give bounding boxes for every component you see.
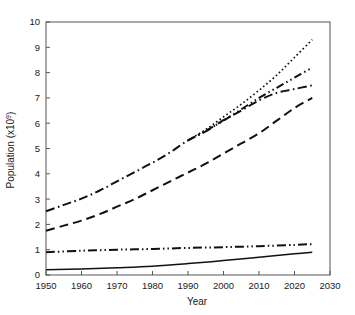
y-tick-label: 8 <box>35 67 40 78</box>
series-line-developing-regions <box>46 244 312 252</box>
x-tick-label: 2010 <box>248 280 269 291</box>
x-tick-label: 2030 <box>319 280 340 291</box>
series-line-world-total <box>46 85 312 211</box>
y-tick-label: 5 <box>35 143 40 154</box>
x-tick-label: 1950 <box>35 280 56 291</box>
x-tick-label: 2000 <box>213 280 234 291</box>
x-tick-label: 1960 <box>71 280 92 291</box>
series-line-least-developed <box>46 252 312 269</box>
y-tick-label: 10 <box>29 16 40 27</box>
x-tick-label: 1980 <box>142 280 163 291</box>
y-tick-label: 7 <box>35 92 40 103</box>
plot-area-border <box>46 22 330 275</box>
x-axis-title: Year <box>187 296 208 307</box>
plot-frame <box>46 22 330 275</box>
series-line-medium-high-projection <box>188 68 312 141</box>
x-tick-label: 1970 <box>106 280 127 291</box>
data-series-group <box>46 40 312 270</box>
series-line-low-projection <box>46 98 312 231</box>
y-tick-label: 9 <box>35 42 40 53</box>
y-tick-label: 6 <box>35 118 40 129</box>
x-tick-label: 1990 <box>177 280 198 291</box>
x-axis-ticks: 195019601970198019902000201020202030 <box>35 271 340 291</box>
y-tick-label: 1 <box>35 244 40 255</box>
y-tick-label: 0 <box>35 269 40 280</box>
y-axis-title: Population (x109) <box>5 112 17 189</box>
y-tick-label: 3 <box>35 194 40 205</box>
x-tick-label: 2020 <box>284 280 305 291</box>
y-tick-label: 4 <box>35 168 40 179</box>
chart-canvas: 012345678910 195019601970198019902000201… <box>0 0 355 315</box>
y-axis-ticks: 012345678910 <box>29 16 50 280</box>
population-projection-chart: 012345678910 195019601970198019902000201… <box>0 0 355 315</box>
y-tick-label: 2 <box>35 219 40 230</box>
